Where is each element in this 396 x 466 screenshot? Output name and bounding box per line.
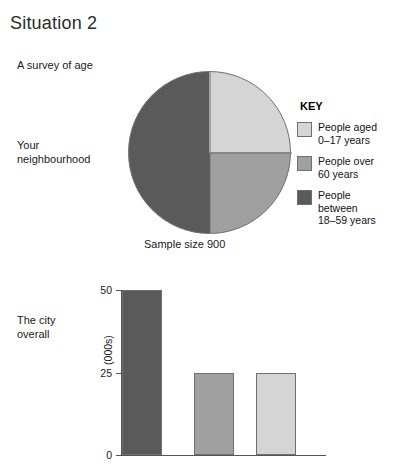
legend-item-between-18-59: People between 18–59 years [297,189,393,227]
page-title: Situation 2 [10,13,97,34]
legend-item-aged-0-17: People aged 0–17 years [297,121,393,146]
bar-series [122,290,326,455]
legend-swatch-aged-0-17 [297,122,312,137]
pie-slice-divider [209,153,210,235]
legend-label-over-60-line1: People over [318,155,374,167]
row-label-city: The city overall [17,313,107,341]
row-label-neighbourhood-line1: Your [17,138,107,152]
worksheet-page: Situation 2 A survey of age Your neighbo… [0,0,396,466]
row-label-city-line1: The city [17,313,107,327]
y-tick-label: 0 [94,449,112,461]
bar-1 [122,290,162,455]
legend: KEY People aged 0–17 years People over 6… [297,100,393,236]
y-tick-label: 25 [94,367,112,379]
legend-label-over-60-line2: 60 years [318,168,358,180]
legend-label-over-60: People over 60 years [318,155,374,180]
bar-2 [194,373,234,456]
y-tick-mark [116,290,121,291]
legend-label-aged-0-17-line1: People aged [318,121,377,133]
legend-label-between-18-59: People between 18–59 years [318,189,393,227]
legend-swatch-over-60 [297,156,312,171]
legend-swatch-between-18-59 [297,190,312,205]
legend-title: KEY [300,100,393,112]
pie-chart [128,71,291,234]
pie-chart-caption: Sample size 900 [144,238,225,250]
legend-label-between-18-59-line2: 18–59 years [318,214,376,226]
pie-slice-divider [210,152,292,153]
survey-heading: A survey of age [17,58,93,72]
row-label-city-line2: overall [17,327,107,341]
legend-label-aged-0-17-line2: 0–17 years [318,134,370,146]
legend-label-aged-0-17: People aged 0–17 years [318,121,377,146]
row-label-neighbourhood-line2: neighbourhood [17,152,107,166]
bar-3 [256,373,296,456]
legend-label-between-18-59-line1: People between [318,189,358,214]
x-axis-line [121,455,326,456]
pie-slice-divider [209,71,210,153]
y-tick-mark [116,455,121,456]
y-tick-label: 50 [94,284,112,296]
y-tick-mark [116,373,121,374]
row-label-neighbourhood: Your neighbourhood [17,138,107,166]
bar-chart: (000s) 02550 [96,288,326,460]
legend-item-over-60: People over 60 years [297,155,393,180]
